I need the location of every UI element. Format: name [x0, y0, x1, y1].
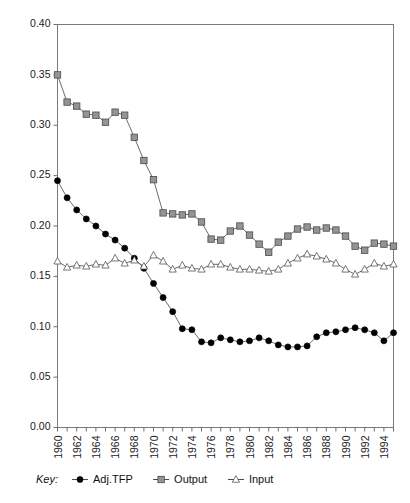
chart-canvas: 0.000.050.100.150.200.250.300.350.401960… — [0, 0, 410, 503]
data-point-square — [160, 210, 166, 216]
data-point-square — [150, 176, 156, 182]
data-point-square — [102, 119, 108, 125]
y-tick-label: 0.30 — [30, 118, 51, 130]
y-tick-label: 0.00 — [30, 420, 51, 432]
legend-item-input: Input — [228, 473, 273, 485]
data-point-circle — [112, 237, 118, 243]
legend-label: Output — [174, 473, 207, 485]
data-point-square — [390, 243, 396, 249]
data-point-square — [141, 157, 147, 163]
data-point-triangle — [352, 270, 359, 277]
data-point-square — [285, 233, 291, 239]
data-point-circle — [74, 207, 80, 213]
data-point-triangle — [275, 265, 282, 272]
data-point-circle — [151, 280, 157, 286]
data-point-square — [83, 111, 89, 117]
series-input — [54, 250, 397, 277]
data-point-square — [352, 243, 358, 249]
data-point-circle — [170, 309, 176, 315]
y-tick-label: 0.05 — [30, 370, 51, 382]
data-point-square — [54, 72, 60, 78]
data-point-triangle — [92, 260, 99, 267]
data-point-circle — [237, 339, 243, 345]
y-tick-label: 0.35 — [30, 68, 51, 80]
data-point-triangle — [112, 254, 119, 261]
data-point-square — [93, 112, 99, 118]
data-point-square — [304, 224, 310, 230]
x-tick-label: 1966 — [109, 435, 121, 459]
data-point-circle — [55, 178, 61, 184]
chart-figure: 0.000.050.100.150.200.250.300.350.401960… — [0, 0, 410, 503]
data-point-square — [381, 241, 387, 247]
y-tick-label: 0.10 — [30, 320, 51, 332]
data-point-circle — [93, 223, 99, 229]
data-point-square — [275, 239, 281, 245]
data-point-circle — [285, 344, 291, 350]
data-point-circle — [208, 340, 214, 346]
data-point-circle — [371, 330, 377, 336]
x-tick-label: 1960 — [52, 435, 64, 459]
data-point-triangle — [390, 260, 397, 267]
data-point-circle — [160, 295, 166, 301]
data-point-circle — [362, 327, 368, 333]
data-point-square — [131, 134, 137, 140]
x-tick-label: 1974 — [186, 435, 198, 459]
data-point-square — [122, 112, 128, 118]
x-tick-label: 1988 — [320, 435, 332, 459]
y-tick-label: 0.40 — [30, 17, 51, 29]
data-point-square — [218, 237, 224, 243]
data-point-circle — [103, 231, 109, 237]
x-tick-label: 1982 — [263, 435, 275, 459]
data-point-circle — [266, 338, 272, 344]
data-point-triangle — [217, 260, 224, 267]
data-point-circle — [352, 325, 358, 331]
data-point-triangle — [342, 265, 349, 272]
data-point-triangle — [54, 257, 61, 264]
data-point-square — [294, 226, 300, 232]
y-tick-label: 0.25 — [30, 168, 51, 180]
data-point-circle — [275, 342, 281, 348]
data-point-square — [342, 233, 348, 239]
data-point-triangle — [232, 476, 239, 483]
x-tick-label: 1990 — [340, 435, 352, 459]
legend-item-output: Output — [153, 473, 207, 485]
x-tick-label: 1978 — [224, 435, 236, 459]
data-point-triangle — [179, 261, 186, 268]
data-point-triangle — [304, 250, 311, 257]
data-point-circle — [199, 339, 205, 345]
data-point-square — [227, 228, 233, 234]
data-point-square — [158, 476, 164, 482]
x-tick-label: 1964 — [90, 435, 102, 459]
data-point-circle — [304, 343, 310, 349]
data-point-square — [237, 223, 243, 229]
data-point-triangle — [150, 251, 157, 258]
data-point-square — [112, 109, 118, 115]
data-point-square — [189, 211, 195, 217]
legend-label: Adj.TFP — [93, 473, 133, 485]
data-point-triangle — [361, 265, 368, 272]
data-point-circle — [189, 327, 195, 333]
series-line — [58, 75, 394, 252]
legend-label: Input — [249, 473, 273, 485]
data-point-circle — [323, 330, 329, 336]
data-point-square — [170, 211, 176, 217]
y-tick-label: 0.15 — [30, 269, 51, 281]
data-point-circle — [314, 334, 320, 340]
data-point-square — [256, 241, 262, 247]
data-point-circle — [343, 327, 349, 333]
series-output — [54, 72, 396, 256]
data-point-triangle — [246, 265, 253, 272]
data-point-triangle — [294, 254, 301, 261]
plot-frame — [58, 25, 394, 428]
data-point-circle — [179, 326, 185, 332]
data-point-square — [333, 227, 339, 233]
x-tick-label: 1992 — [359, 435, 371, 459]
data-point-triangle — [160, 257, 167, 264]
data-point-square — [314, 227, 320, 233]
data-point-circle — [227, 337, 233, 343]
data-point-circle — [295, 344, 301, 350]
data-point-circle — [77, 477, 83, 483]
data-point-triangle — [284, 259, 291, 266]
x-tick-label: 1972 — [167, 435, 179, 459]
data-point-triangle — [169, 265, 176, 272]
